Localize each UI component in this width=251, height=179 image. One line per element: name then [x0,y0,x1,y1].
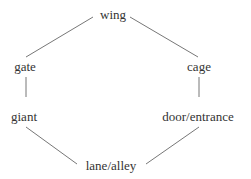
node-giant: giant [11,110,37,124]
edge-giant-lane [26,127,77,164]
edge-wing-gate [26,17,93,57]
node-cage: cage [187,60,211,74]
diagram-canvas: wing gate cage giant door/entrance lane/… [0,0,251,179]
node-door-entrance: door/entrance [162,110,233,124]
edges-layer [0,0,251,179]
node-lane-alley: lane/alley [86,159,137,173]
node-gate: gate [14,60,36,74]
edge-wing-cage [130,17,198,57]
edge-door-lane [146,127,199,164]
node-wing: wing [100,8,126,22]
